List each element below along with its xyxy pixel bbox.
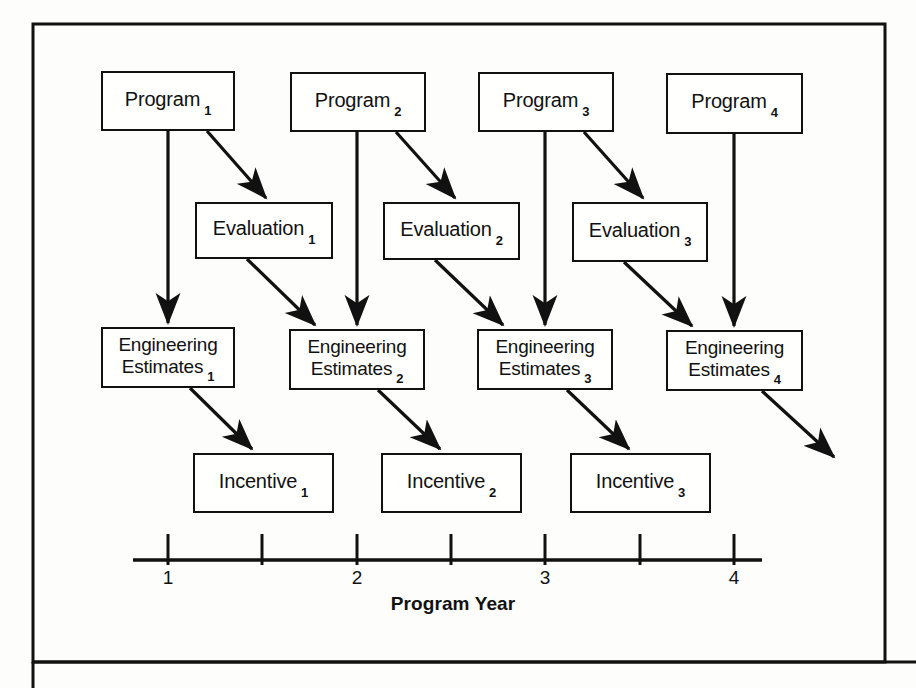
edge-evaluation1-estimates2 — [247, 259, 315, 325]
node-subscript: 4 — [771, 105, 778, 120]
node-subscript: 3 — [684, 234, 691, 249]
program-year-axis — [133, 534, 762, 565]
edge-program3-evaluation3 — [584, 132, 643, 198]
node-subscript: 2 — [496, 233, 503, 248]
edge-estimates2-incentive2 — [378, 390, 440, 449]
edge-evaluation2-estimates3 — [435, 260, 503, 325]
node-label-engineering-estimates-1: EngineeringEstimates1 — [118, 334, 217, 381]
node-engineering-estimates-1[interactable]: EngineeringEstimates1 — [101, 327, 235, 388]
node-program-1[interactable]: Program1 — [101, 71, 235, 131]
axis-tick-label-3: 3 — [525, 567, 565, 589]
node-evaluation-3[interactable]: Evaluation3 — [572, 202, 708, 262]
node-text-line: Estimates1 — [118, 356, 217, 382]
node-engineering-estimates-3[interactable]: EngineeringEstimates3 — [477, 329, 613, 390]
node-subscript: 2 — [396, 371, 403, 386]
node-evaluation-1[interactable]: Evaluation1 — [195, 202, 333, 259]
edge-estimates1-incentive1 — [190, 388, 252, 449]
node-text-line: Evaluation2 — [400, 218, 502, 245]
node-text-line: Program1 — [125, 88, 211, 115]
node-label-program-2: Program2 — [315, 89, 401, 116]
node-subscript: 1 — [308, 232, 315, 247]
node-text-line: Incentive3 — [596, 470, 685, 497]
node-label-engineering-estimates-2: EngineeringEstimates2 — [307, 336, 406, 383]
node-engineering-estimates-2[interactable]: EngineeringEstimates2 — [289, 329, 425, 390]
node-text-line: Program3 — [503, 89, 589, 116]
node-subscript: 2 — [394, 104, 401, 119]
node-evaluation-2[interactable]: Evaluation2 — [383, 202, 520, 260]
node-label-evaluation-2: Evaluation2 — [400, 218, 502, 245]
node-program-4[interactable]: Program4 — [666, 73, 803, 134]
node-program-2[interactable]: Program2 — [290, 72, 426, 132]
node-text-line: Engineering — [118, 334, 217, 356]
node-program-3[interactable]: Program3 — [478, 72, 614, 132]
node-text-line: Estimates3 — [495, 358, 594, 384]
node-label-engineering-estimates-3: EngineeringEstimates3 — [495, 336, 594, 383]
edge-estimates4-open — [762, 391, 834, 457]
node-engineering-estimates-4[interactable]: EngineeringEstimates4 — [666, 330, 803, 391]
node-subscript: 2 — [489, 485, 496, 500]
node-label-incentive-1: Incentive1 — [219, 470, 308, 497]
node-text-line: Engineering — [307, 336, 406, 358]
node-label-engineering-estimates-4: EngineeringEstimates4 — [685, 337, 784, 384]
axis-tick-label-2: 2 — [337, 567, 377, 589]
node-text-line: Engineering — [495, 336, 594, 358]
edge-program1-evaluation1 — [207, 131, 266, 198]
node-label-program-3: Program3 — [503, 89, 589, 116]
node-subscript: 4 — [774, 372, 781, 387]
edge-estimates3-incentive3 — [567, 390, 629, 449]
edge-evaluation3-estimates4 — [624, 262, 692, 326]
node-label-program-1: Program1 — [125, 88, 211, 115]
node-incentive-1[interactable]: Incentive1 — [193, 453, 334, 513]
node-subscript: 3 — [678, 485, 685, 500]
node-label-evaluation-1: Evaluation1 — [213, 217, 315, 244]
node-text-line: Program4 — [691, 90, 777, 117]
node-text-line: Evaluation1 — [213, 217, 315, 244]
axis-tick-label-4: 4 — [714, 567, 754, 589]
node-subscript: 1 — [204, 103, 211, 118]
node-text-line: Incentive2 — [407, 470, 496, 497]
node-label-incentive-2: Incentive2 — [407, 470, 496, 497]
node-subscript: 3 — [582, 104, 589, 119]
node-text-line: Estimates4 — [685, 359, 784, 385]
node-text-line: Engineering — [685, 337, 784, 359]
edge-program2-evaluation2 — [396, 132, 455, 198]
axis-tick-label-1: 1 — [148, 567, 188, 589]
node-subscript: 1 — [207, 369, 214, 384]
node-label-incentive-3: Incentive3 — [596, 470, 685, 497]
axis-title: Program Year — [343, 593, 563, 615]
node-label-program-4: Program4 — [691, 90, 777, 117]
node-text-line: Program2 — [315, 89, 401, 116]
node-text-line: Evaluation3 — [589, 219, 691, 246]
node-incentive-2[interactable]: Incentive2 — [381, 453, 522, 513]
node-text-line: Incentive1 — [219, 470, 308, 497]
node-label-evaluation-3: Evaluation3 — [589, 219, 691, 246]
node-incentive-3[interactable]: Incentive3 — [570, 453, 711, 513]
node-subscript: 3 — [584, 371, 591, 386]
figure-root: Program1Program2Program3Program4Evaluati… — [0, 0, 916, 688]
node-text-line: Estimates2 — [307, 358, 406, 384]
node-subscript: 1 — [301, 485, 308, 500]
edges-group — [168, 131, 834, 457]
